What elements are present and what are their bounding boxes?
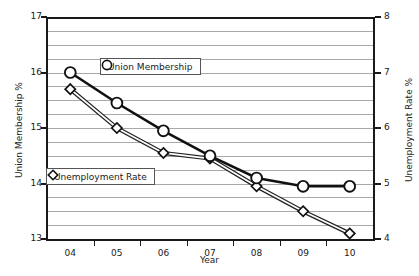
y-axis-left-title: Union Membership % [14,82,24,178]
legend-label-union-membership: Union Membership [108,62,193,72]
data-point-circle[interactable] [65,67,76,78]
y-axis-left-tick-label: 16 [12,67,42,77]
y-axis-left-tick-label: 17 [12,11,42,21]
data-point-circle[interactable] [251,173,262,184]
chart-container: 13141516174567804050607080910 Union Memb… [0,0,419,276]
y-axis-left-tick-label: 13 [12,233,42,243]
data-point-circle[interactable] [205,150,216,161]
legend-item-union-membership[interactable]: Union Membership [100,58,201,75]
data-point-circle[interactable] [112,98,123,109]
y-axis-right-tick-label: 5 [384,178,404,188]
data-series-layer [0,0,419,276]
y-axis-right-tick-label: 7 [384,67,404,77]
data-point-circle[interactable] [298,181,309,192]
x-axis-title: Year [0,255,419,265]
y-axis-right-tick-label: 6 [384,122,404,132]
y-axis-right-title: Unemployment Rate % [404,78,414,182]
y-axis-left-tick-label: 14 [12,178,42,188]
diamond-marker-icon [47,169,59,181]
circle-marker-icon [101,59,113,71]
data-point-circle[interactable] [344,181,355,192]
legend-label-unemployment-rate: Unemployment Rate [54,172,147,182]
legend-item-unemployment-rate[interactable]: Unemployment Rate [46,168,155,185]
y-axis-right-tick-label: 4 [384,233,404,243]
data-point-circle[interactable] [158,125,169,136]
y-axis-right-tick-label: 8 [384,11,404,21]
